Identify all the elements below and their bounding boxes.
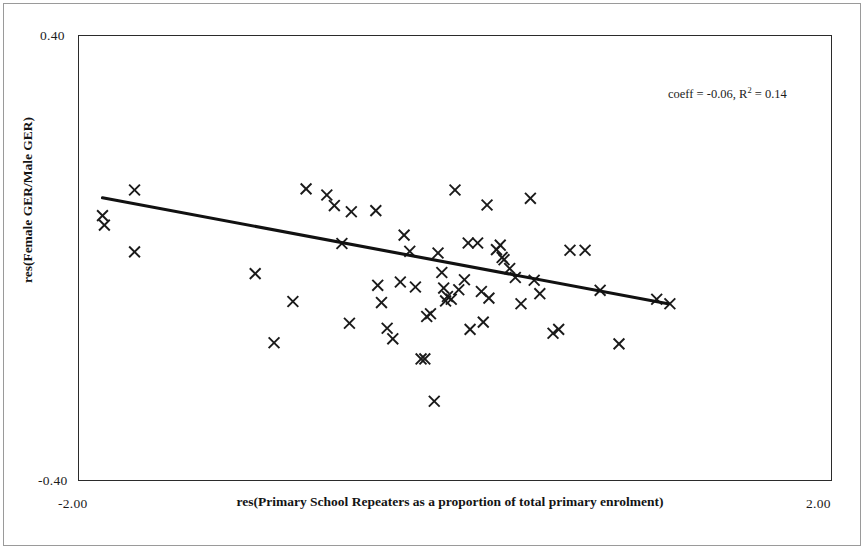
scatter-point <box>129 246 140 257</box>
scatter-point <box>525 193 536 204</box>
scatter-point <box>614 338 625 349</box>
y-axis-tick-max: 0.40 <box>40 28 65 44</box>
scatter-point <box>472 238 483 249</box>
scatter-point <box>269 337 280 348</box>
scatter-point <box>553 324 564 335</box>
scatter-point <box>459 274 470 285</box>
scatter-point <box>395 277 406 288</box>
scatter-point <box>99 220 110 231</box>
chart-figure: 0.40 -0.40 -2.00 2.00 res(Female GER/Mal… <box>0 0 865 550</box>
y-axis-tick-min: -0.40 <box>38 473 68 489</box>
scatter-point <box>453 284 464 295</box>
scatter-point <box>329 200 340 211</box>
y-axis-title: res(Female GER/Male GER) <box>20 100 36 300</box>
annotation-prefix: coeff = -0.06, R <box>668 87 747 101</box>
scatter-point <box>376 297 387 308</box>
scatter-point <box>129 185 140 196</box>
scatter-point <box>450 185 461 196</box>
scatter-point <box>484 293 495 304</box>
scatter-point <box>548 328 559 339</box>
scatter-point <box>516 298 527 309</box>
scatter-markers-group <box>97 183 675 406</box>
scatter-point <box>250 268 261 279</box>
scatter-point <box>580 245 591 256</box>
scatter-point <box>372 280 383 291</box>
scatter-point <box>429 396 440 407</box>
scatter-point <box>410 282 421 293</box>
scatter-point <box>301 183 312 194</box>
scatter-point <box>287 296 298 307</box>
scatter-point <box>321 190 332 201</box>
scatter-point <box>495 240 506 251</box>
scatter-point <box>436 267 447 278</box>
scatter-point <box>482 200 493 211</box>
scatter-point <box>387 333 398 344</box>
scatter-point <box>370 205 381 216</box>
scatter-point <box>478 317 489 328</box>
x-axis-title: res(Primary School Repeaters as a propor… <box>150 494 750 510</box>
scatter-point <box>463 238 474 249</box>
scatter-point <box>97 210 108 221</box>
scatter-point <box>425 308 436 319</box>
scatter-point <box>382 323 393 334</box>
scatter-point <box>346 206 357 217</box>
scatter-point <box>433 248 444 259</box>
regression-annotation: coeff = -0.06, R2 = 0.14 <box>668 85 787 102</box>
x-axis-tick-min: -2.00 <box>58 496 88 512</box>
scatter-point <box>534 288 545 299</box>
x-axis-tick-max: 2.00 <box>806 496 831 512</box>
annotation-suffix: = 0.14 <box>752 87 787 101</box>
scatter-point <box>344 318 355 329</box>
scatter-point <box>399 230 410 241</box>
scatter-point <box>565 245 576 256</box>
scatter-point <box>465 324 476 335</box>
